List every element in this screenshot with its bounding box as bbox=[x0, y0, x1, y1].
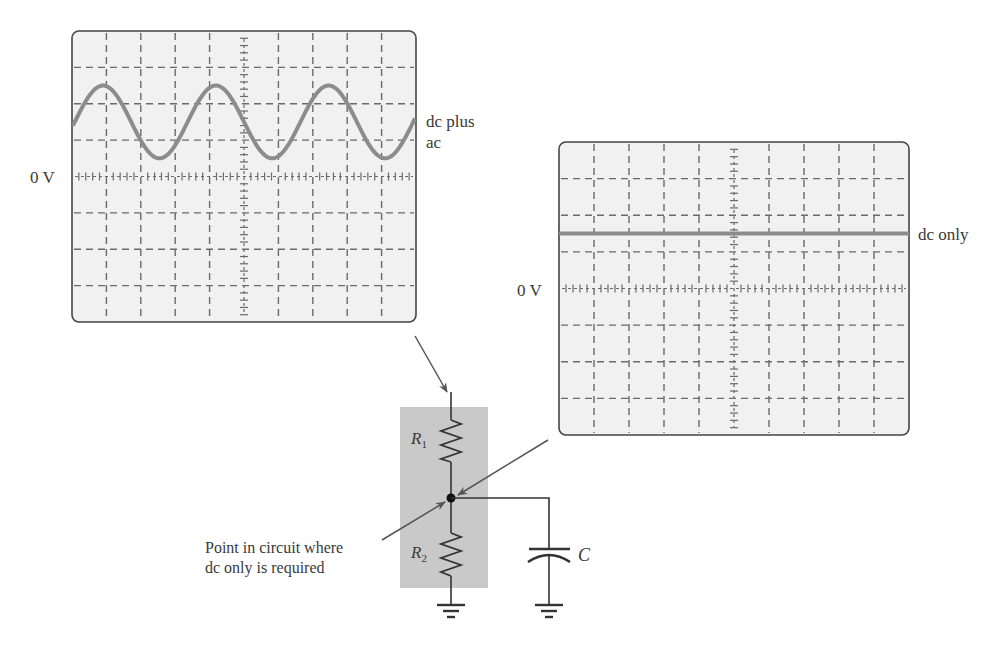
annotation-line2: dc only is required bbox=[205, 558, 325, 578]
scope-left-trace-label-line1: dc plus bbox=[426, 112, 475, 132]
scope-right-trace-label: dc only bbox=[918, 225, 969, 245]
voltage-divider-circuit bbox=[400, 392, 570, 617]
diagram-canvas bbox=[0, 0, 1003, 651]
oscilloscope-left bbox=[72, 31, 416, 322]
ground-icon-r2 bbox=[437, 605, 465, 617]
arrow-left-scope-to-input bbox=[415, 336, 447, 392]
r2-label-subscript: 2 bbox=[421, 552, 427, 564]
r1-label-subscript: 1 bbox=[421, 438, 427, 450]
capacitor-c-icon bbox=[528, 549, 570, 605]
scope-left-trace-label-line2: ac bbox=[426, 133, 441, 153]
r1-label: R1 bbox=[411, 429, 427, 454]
scope-right-zero-volt-label: 0 V bbox=[517, 281, 542, 301]
r2-label-letter: R bbox=[411, 543, 421, 562]
ground-icon-capacitor bbox=[535, 605, 563, 617]
capacitor-label: C bbox=[578, 545, 590, 565]
annotation-line1: Point in circuit where bbox=[205, 538, 343, 558]
r2-label: R2 bbox=[411, 543, 427, 568]
oscilloscope-right bbox=[559, 142, 909, 435]
scope-left-zero-volt-label: 0 V bbox=[30, 168, 55, 188]
r1-label-letter: R bbox=[411, 429, 421, 448]
